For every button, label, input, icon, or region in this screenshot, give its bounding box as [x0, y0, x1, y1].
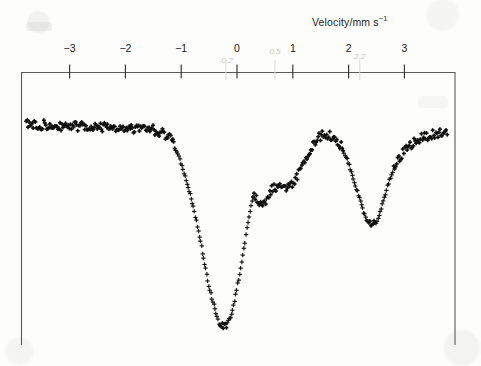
data-point-marker — [186, 185, 190, 189]
data-point-marker — [200, 244, 204, 248]
data-point-marker — [360, 206, 364, 210]
data-point-marker — [249, 203, 253, 207]
data-series-points — [24, 118, 449, 330]
plot-frame — [22, 73, 456, 346]
data-point-marker — [205, 279, 209, 283]
data-point-marker — [402, 151, 406, 155]
data-point-marker — [76, 129, 80, 133]
data-point-marker — [233, 292, 237, 296]
data-point-marker — [384, 188, 388, 192]
data-point-marker — [184, 178, 188, 182]
data-point-marker — [189, 197, 193, 201]
data-point-marker — [203, 266, 207, 270]
data-point-marker — [247, 215, 251, 219]
data-point-marker — [213, 307, 217, 311]
data-point-marker — [192, 209, 196, 213]
plot-canvas — [0, 0, 481, 366]
data-point-marker — [252, 191, 256, 195]
data-point-marker — [238, 266, 242, 270]
data-point-marker — [361, 211, 365, 215]
data-point-marker — [431, 128, 435, 132]
data-point-marker — [242, 246, 246, 250]
data-point-marker — [246, 220, 250, 224]
data-point-marker — [241, 253, 245, 257]
data-point-marker — [207, 284, 211, 288]
data-point-marker — [355, 188, 359, 192]
data-point-marker — [244, 232, 248, 236]
data-point-marker — [201, 256, 205, 260]
data-point-marker — [196, 229, 200, 233]
data-point-marker — [202, 262, 206, 266]
data-point-marker — [191, 204, 195, 208]
data-point-marker — [137, 129, 141, 133]
data-point-marker — [224, 326, 228, 330]
mossbauer-spectrum-figure: Velocity/mm s−1 −3−2−10123 -0.20.52.2 — [0, 0, 481, 366]
data-point-marker — [339, 140, 343, 144]
data-point-marker — [318, 138, 322, 142]
data-point-marker — [201, 252, 205, 256]
data-point-marker — [359, 203, 363, 207]
data-point-marker — [328, 130, 332, 134]
frame-border — [22, 73, 456, 346]
data-point-marker — [245, 225, 249, 229]
data-point-marker — [205, 272, 209, 276]
data-point-marker — [243, 241, 247, 245]
data-point-marker — [197, 235, 201, 239]
data-point-marker — [240, 260, 244, 264]
data-point-marker — [195, 225, 199, 229]
data-point-marker — [190, 201, 194, 205]
data-point-marker — [234, 288, 238, 292]
data-point-marker — [230, 308, 234, 312]
data-point-marker — [181, 167, 185, 171]
data-point-marker — [198, 239, 202, 243]
data-point-marker — [295, 172, 299, 176]
x-axis-ticks — [70, 60, 405, 80]
data-point-marker — [238, 272, 242, 276]
data-point-marker — [185, 182, 189, 186]
data-point-marker — [248, 209, 252, 213]
